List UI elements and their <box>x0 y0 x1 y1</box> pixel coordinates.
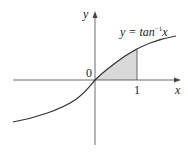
arctan-plot <box>0 0 188 153</box>
function-label: y = tan−1x <box>120 26 168 38</box>
origin-label: 0 <box>86 67 92 79</box>
figure: y y = tan−1x 0 1 x <box>0 0 188 153</box>
x-axis-arrow-icon <box>174 78 181 83</box>
y-axis-label: y <box>83 8 88 20</box>
shaded-area <box>95 49 137 80</box>
y-axis-arrow-icon <box>93 11 98 18</box>
tick-label-1: 1 <box>134 84 140 96</box>
x-axis-label: x <box>175 84 180 96</box>
arctan-curve <box>13 36 176 122</box>
